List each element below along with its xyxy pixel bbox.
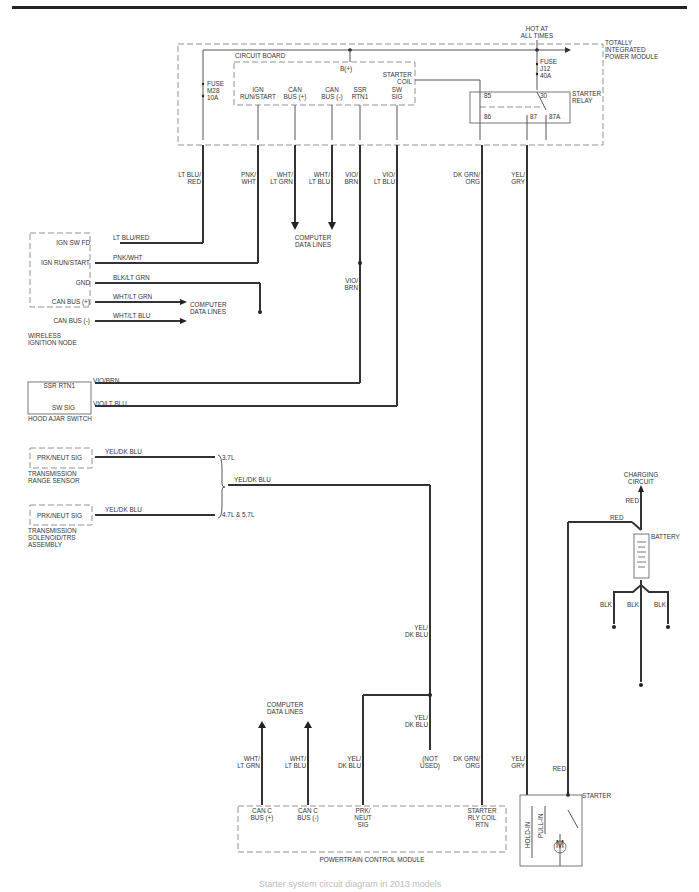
top-border	[12, 6, 687, 9]
svg-text:WHT: WHT	[241, 178, 256, 185]
svg-text:TRANSMISSION: TRANSMISSION	[28, 470, 77, 477]
svg-text:30: 30	[540, 92, 548, 99]
svg-text:RUN/START: RUN/START	[240, 93, 276, 100]
svg-text:WIRELESS: WIRELESS	[28, 332, 61, 339]
svg-text:LT BLU/RED: LT BLU/RED	[113, 234, 150, 241]
svg-text:DK GRN/: DK GRN/	[453, 171, 480, 178]
svg-text:RED: RED	[188, 178, 202, 185]
svg-text:WHT/: WHT/	[290, 755, 307, 762]
svg-text:BLK: BLK	[627, 601, 640, 608]
svg-text:PNK/WHT: PNK/WHT	[113, 254, 143, 261]
svg-text:LT GRN: LT GRN	[270, 178, 293, 185]
svg-text:IGN SW FD: IGN SW FD	[56, 239, 90, 246]
svg-text:BATTERY: BATTERY	[651, 533, 681, 540]
svg-text:BLK/LT GRN: BLK/LT GRN	[113, 274, 150, 281]
svg-text:SOLENOID/TRS: SOLENOID/TRS	[28, 534, 76, 541]
vertical-wire-labels: LT BLU/ RED PNK/ WHT WHT/ LT GRN WHT/ LT…	[178, 171, 526, 291]
svg-text:DATA LINES: DATA LINES	[295, 241, 331, 248]
svg-text:HOLD-IN: HOLD-IN	[524, 821, 531, 848]
svg-text:ORG: ORG	[465, 178, 480, 185]
svg-text:WHT/LT GRN: WHT/LT GRN	[113, 293, 153, 300]
svg-text:WHT/: WHT/	[314, 171, 331, 178]
svg-text:YEL/DK BLU: YEL/DK BLU	[234, 476, 271, 483]
svg-text:HOT AT: HOT AT	[526, 25, 549, 32]
svg-text:PRK/NEUT SIG: PRK/NEUT SIG	[37, 512, 82, 519]
svg-text:ASSEMBLY: ASSEMBLY	[28, 541, 63, 548]
svg-text:VIO/BRN: VIO/BRN	[93, 377, 120, 384]
svg-text:GRY: GRY	[511, 762, 525, 769]
svg-text:DATA LINES: DATA LINES	[190, 308, 226, 315]
svg-text:ORG: ORG	[465, 762, 480, 769]
svg-text:BRN: BRN	[345, 284, 359, 291]
svg-text:HOOD AJAR SWITCH: HOOD AJAR SWITCH	[28, 415, 92, 422]
svg-text:86: 86	[484, 113, 492, 120]
svg-text:SSR RTN1: SSR RTN1	[44, 382, 76, 389]
svg-text:WHT/: WHT/	[277, 171, 294, 178]
svg-text:CAN: CAN	[325, 86, 339, 93]
svg-text:STARTER: STARTER	[572, 90, 602, 97]
svg-text:POWER MODULE: POWER MODULE	[605, 53, 658, 60]
svg-text:COMPUTER: COMPUTER	[295, 234, 332, 241]
svg-text:CHARGING: CHARGING	[624, 471, 658, 478]
svg-text:85: 85	[484, 92, 492, 99]
svg-text:M28: M28	[207, 87, 220, 94]
svg-text:CIRCUIT BOARD: CIRCUIT BOARD	[235, 52, 286, 59]
svg-text:DK GRN/: DK GRN/	[453, 755, 480, 762]
svg-text:COIL: COIL	[397, 78, 412, 85]
svg-text:BLK: BLK	[600, 601, 613, 608]
svg-text:40A: 40A	[540, 72, 552, 79]
svg-text:BUS (+): BUS (+)	[284, 93, 307, 101]
svg-text:YEL/: YEL/	[414, 714, 428, 721]
svg-text:RLY COIL: RLY COIL	[468, 814, 497, 821]
svg-text:SIG: SIG	[391, 93, 402, 100]
svg-text:BLK: BLK	[654, 601, 667, 608]
svg-text:POWERTRAIN CONTROL MODULE: POWERTRAIN CONTROL MODULE	[319, 856, 424, 863]
svg-text:SSR: SSR	[353, 86, 367, 93]
svg-text:IGN RUN/START: IGN RUN/START	[41, 259, 90, 266]
svg-text:VIO/LT BLU: VIO/LT BLU	[93, 400, 127, 407]
battery-symbol	[634, 534, 649, 578]
svg-text:TRANSMISSION: TRANSMISSION	[28, 527, 77, 534]
svg-text:GND: GND	[76, 279, 91, 286]
svg-text:STARTER: STARTER	[582, 792, 612, 799]
svg-text:YEL/: YEL/	[511, 171, 525, 178]
svg-text:FUSE: FUSE	[540, 58, 557, 65]
svg-text:YEL/DK BLU: YEL/DK BLU	[105, 448, 142, 455]
wireless-ignition-node-labels: IGN SW FD IGN RUN/START GND CAN BUS (+) …	[28, 234, 227, 346]
svg-text:YEL/: YEL/	[347, 755, 361, 762]
tipm-labels: HOT AT ALL TIMES TOTALLY INTEGRATED POWE…	[207, 25, 658, 120]
svg-text:CIRCUIT: CIRCUIT	[628, 478, 654, 485]
svg-text:DK BLU: DK BLU	[405, 721, 428, 728]
svg-text:YEL/: YEL/	[511, 755, 525, 762]
svg-text:TOTALLY: TOTALLY	[605, 39, 633, 46]
svg-text:PNK/: PNK/	[241, 171, 256, 178]
svg-text:CAN C: CAN C	[252, 807, 272, 814]
svg-text:DATA LINES: DATA LINES	[267, 708, 303, 715]
svg-text:IGNITION NODE: IGNITION NODE	[28, 339, 77, 346]
pcm-box	[238, 806, 506, 852]
svg-text:RED: RED	[610, 514, 624, 521]
svg-text:INTEGRATED: INTEGRATED	[605, 46, 646, 53]
svg-text:FUSE: FUSE	[207, 80, 224, 87]
svg-text:BUS (-): BUS (-)	[321, 93, 342, 101]
wiring-diagram: HOT AT ALL TIMES TOTALLY INTEGRATED POWE…	[0, 0, 699, 892]
svg-text:YEL/: YEL/	[414, 624, 428, 631]
svg-text:87A: 87A	[549, 113, 561, 120]
svg-text:STARTER: STARTER	[383, 71, 413, 78]
svg-text:LT GRN: LT GRN	[237, 762, 260, 769]
svg-text:3.7L: 3.7L	[222, 454, 235, 461]
svg-text:WHT/LT BLU: WHT/LT BLU	[113, 312, 151, 319]
hood-ajar-labels: SSR RTN1 SW SIG VIO/BRN VIO/LT BLU HOOD …	[28, 377, 127, 422]
svg-text:RTN: RTN	[475, 821, 488, 828]
svg-text:LT BLU/: LT BLU/	[178, 171, 201, 178]
svg-text:RTN1: RTN1	[352, 93, 369, 100]
svg-text:ALL TIMES: ALL TIMES	[521, 32, 553, 39]
svg-text:IGN: IGN	[252, 86, 264, 93]
svg-text:CAN BUS (+): CAN BUS (+)	[52, 298, 90, 306]
svg-text:CAN: CAN	[288, 86, 302, 93]
svg-text:DK BLU: DK BLU	[405, 631, 428, 638]
svg-text:COMPUTER: COMPUTER	[190, 301, 227, 308]
svg-text:PRK/: PRK/	[356, 807, 371, 814]
battery-starter-labels: CHARGING CIRCUIT RED RED BATTERY BLK BLK…	[524, 471, 681, 850]
svg-text:BRN: BRN	[345, 178, 359, 185]
